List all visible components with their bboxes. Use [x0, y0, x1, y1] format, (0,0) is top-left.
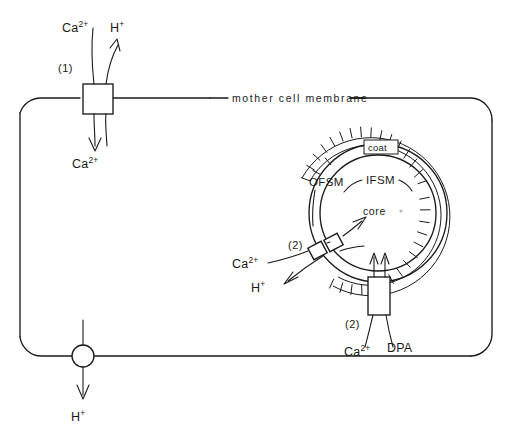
transporter-2-dpa-number-label: (2): [345, 318, 360, 330]
transporter-2-h-out-outer-stem: [288, 256, 323, 281]
membrane-right-edge: [471, 120, 492, 356]
transporter-1-box[interactable]: [83, 84, 113, 114]
transporter-1-h-out-arrowhead: [110, 39, 120, 51]
transporter-2-ca-in-label: Ca2+: [232, 255, 258, 271]
transporter-1-ca-in-label: Ca2+: [72, 155, 98, 171]
proton-pump-h-label: H+: [71, 408, 85, 424]
ofsm-leader-line: [313, 190, 315, 226]
membrane-bottom-left-segment: [20, 337, 73, 356]
mother-cell-membrane-outline: [20, 98, 492, 356]
sporulation-transport-diagram: mother cell membrane Ca2+ H+ (1) Ca2+ H+: [0, 0, 510, 437]
transporter-1-number-label: (1): [58, 62, 73, 74]
transporter-2-ifsm-box[interactable]: [324, 233, 343, 252]
ifsm-leader-line-left: [344, 180, 362, 192]
transporter-2-ca-in-outer-stem: [268, 251, 308, 263]
transporter-2-h-out-inner-stem: [340, 246, 364, 251]
transporter-2-h-out-label: H+: [251, 279, 265, 295]
transporter-1-ca-in-upper-stem: [92, 28, 94, 84]
membrane-top-left-segment: [20, 98, 80, 113]
diagram-canvas: mother cell membrane Ca2+ H+ (1) Ca2+ H+: [0, 0, 510, 437]
transporter-1-h-out-label: H+: [110, 19, 124, 35]
transporter-2-dpa-box[interactable]: [368, 277, 390, 315]
proton-pump-circle[interactable]: [72, 345, 94, 367]
transporter-1-h-out-upper-stem: [106, 45, 118, 84]
transporter-1-h-out-lower-stem: [106, 114, 107, 146]
ofsm-label: OFSM: [309, 176, 344, 188]
ifsm-label: IFSM: [366, 174, 395, 186]
forespore-group: coat OFSM IFSM core: [301, 127, 450, 296]
mother-cell-membrane-label: mother cell membrane: [232, 92, 368, 104]
transporter-1-ca-in-lower-stem: [94, 114, 95, 146]
transporter-2-antiport-group[interactable]: (2) Ca2+ H+: [232, 217, 366, 295]
transporter-2-ca-in-inner-stem: [343, 221, 362, 236]
coat-label: coat: [368, 142, 387, 153]
core-dot-artifact: [399, 209, 402, 212]
core-label: core: [363, 205, 386, 217]
transporter-1-group[interactable]: Ca2+ H+ (1) Ca2+: [58, 19, 124, 171]
transporter-2-antiport-number-label: (2): [288, 239, 303, 251]
proton-pump-group[interactable]: H+: [71, 320, 94, 424]
ifsm-leader-line-right: [399, 180, 412, 191]
transporter-2-dpa-label: DPA: [387, 341, 413, 355]
transporter-1-ca-out-label: Ca2+: [62, 19, 88, 35]
membrane-top-right-segment: [350, 98, 492, 120]
transporter-2-dpa-group[interactable]: (2) Ca2+ DPA: [344, 253, 413, 359]
